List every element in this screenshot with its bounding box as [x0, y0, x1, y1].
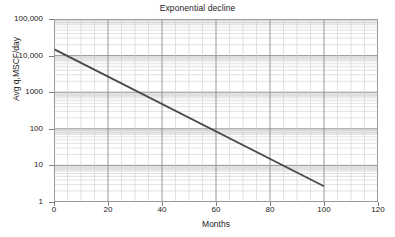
- x-tick-label: 100: [309, 205, 339, 214]
- x-tick-label: 40: [147, 205, 177, 214]
- x-tick-label: 60: [201, 205, 231, 214]
- x-tick-mark: [270, 202, 271, 206]
- x-axis-label: Months: [54, 219, 378, 229]
- chart-figure: Exponential decline 110100100010,000100,…: [0, 0, 395, 237]
- x-tick-mark: [54, 202, 55, 206]
- y-axis-label-wrapper: Avg q,MSCF/day: [9, 9, 23, 129]
- x-tick-label: 120: [363, 205, 393, 214]
- x-tick-label: 80: [255, 205, 285, 214]
- x-axis-ticks: 020406080100120: [0, 0, 395, 237]
- x-tick-mark: [216, 202, 217, 206]
- x-tick-mark: [162, 202, 163, 206]
- x-tick-label: 20: [93, 205, 123, 214]
- x-tick-mark: [378, 202, 379, 206]
- x-tick-mark: [108, 202, 109, 206]
- x-tick-mark: [324, 202, 325, 206]
- x-tick-label: 0: [39, 205, 69, 214]
- y-axis-label: Avg q,MSCF/day: [9, 9, 23, 129]
